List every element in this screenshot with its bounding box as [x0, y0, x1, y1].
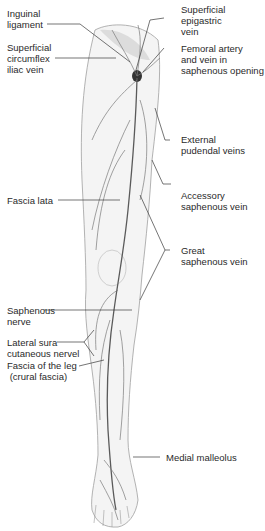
label-external-pudendal-veins: External pudendal veins: [181, 134, 245, 156]
label-fascia-of-the-leg: Fascia of the leg (crural fascia): [7, 360, 77, 382]
label-superficial-circumflex-iliac-vein: Superficial circumflex iliac vein: [7, 42, 51, 75]
label-medial-malleolus: Medial malleolus: [166, 452, 237, 463]
label-great-saphenous-vein: Great saphenous vein: [181, 245, 248, 267]
label-inguinal-ligament: Inguinal ligament: [7, 8, 43, 30]
label-saphenous-nerve: Saphenous nerve: [7, 305, 55, 327]
label-femoral-artery-and-vein: Femoral artery and vein in saphenous ope…: [181, 43, 264, 76]
label-superficial-epigastric-vein: Superficial epigastric vein: [181, 4, 225, 37]
leg-outline: [81, 25, 159, 527]
label-fascia-lata: Fascia lata: [7, 195, 53, 206]
leg-anatomy-figure: Inguinal ligament Superficial circumflex…: [0, 0, 265, 531]
label-accessory-saphenous-vein: Accessory saphenous vein: [181, 190, 248, 212]
label-lateral-sura-cutaneous-nerve: Lateral sura cutaneous nervel: [7, 337, 79, 359]
